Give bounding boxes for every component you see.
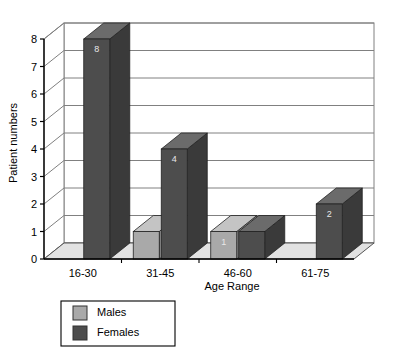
y-tick-label: 3 <box>31 171 37 183</box>
plot-left-wall <box>44 23 64 259</box>
legend-item-males: Males <box>73 306 127 320</box>
y-axis-title: Patient numbers <box>7 102 19 183</box>
y-axis-ticks: 012345678 <box>31 33 44 265</box>
x-category-label: 16-30 <box>69 267 97 279</box>
y-tick-label: 0 <box>31 253 37 265</box>
bar-side-face <box>187 133 207 259</box>
bar-front-face <box>133 232 159 260</box>
bar-value-label: 8 <box>94 44 99 54</box>
x-axis-title: Age Range <box>204 280 259 292</box>
x-category-label: 31-45 <box>146 267 174 279</box>
bar-front-face <box>239 232 265 260</box>
x-category-label: 61-75 <box>301 267 329 279</box>
legend-label: Females <box>97 326 140 338</box>
chart-legend: MalesFemales <box>61 301 175 346</box>
bar-front-face <box>84 39 110 259</box>
legend-item-females: Females <box>73 326 140 340</box>
y-tick-label: 5 <box>31 116 37 128</box>
chart-container: 8412 012345678 16-3031-4546-6061-75 Pati… <box>0 0 408 355</box>
bar-value-label: 2 <box>327 209 332 219</box>
bar-females-16-30: 8 <box>84 23 130 259</box>
bar-females-61-75: 2 <box>316 188 362 259</box>
y-tick-label: 7 <box>31 61 37 73</box>
legend-label: Males <box>97 306 127 318</box>
bar-females-31-45: 4 <box>161 133 207 259</box>
y-tick-label: 2 <box>31 198 37 210</box>
y-tick-label: 1 <box>31 226 37 238</box>
bar-value-label: 4 <box>172 154 177 164</box>
x-axis-categories: 16-3031-4546-6061-75 <box>69 259 330 279</box>
y-tick-label: 4 <box>31 143 37 155</box>
legend-swatch <box>73 326 87 340</box>
y-tick-label: 8 <box>31 33 37 45</box>
y-tick-label: 6 <box>31 88 37 100</box>
bar-value-label: 1 <box>221 237 226 247</box>
x-category-label: 46-60 <box>224 267 252 279</box>
legend-swatch <box>73 306 87 320</box>
bar-chart: 8412 012345678 16-3031-4546-6061-75 Pati… <box>0 0 408 355</box>
bar-front-face <box>161 149 187 259</box>
bar-side-face <box>110 23 130 259</box>
